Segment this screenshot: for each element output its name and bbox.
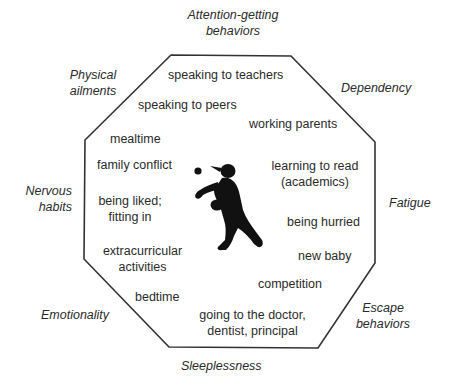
label-line: Nervous — [10, 183, 72, 199]
label-line: ailments — [62, 83, 124, 99]
item-line: being liked; — [90, 193, 170, 209]
item-going-to-doctor: going to the doctor, dentist, principal — [190, 307, 315, 339]
label-emotionality: Emotionality — [41, 307, 109, 323]
item-bedtime: bedtime — [135, 289, 179, 305]
item-competition: competition — [258, 276, 322, 292]
item-line: going to the doctor, — [190, 307, 315, 323]
item-learning-to-read: learning to read (academics) — [265, 158, 365, 190]
item-family-conflict: family conflict — [97, 157, 172, 173]
label-nervous-habits: Nervous habits — [10, 183, 72, 215]
label-line: habits — [10, 199, 72, 215]
label-line: behaviors — [178, 23, 288, 39]
item-line: extracurricular — [95, 243, 190, 259]
label-line: Attention-getting — [178, 7, 288, 23]
label-sleeplessness: Sleeplessness — [181, 358, 262, 374]
label-line: Escape — [343, 300, 423, 316]
item-mealtime: mealtime — [110, 131, 161, 147]
label-line: behaviors — [343, 316, 423, 332]
item-speaking-to-peers: speaking to peers — [138, 97, 237, 113]
item-line: (academics) — [265, 174, 365, 190]
item-working-parents: working parents — [249, 116, 337, 132]
label-escape-behaviors: Escape behaviors — [343, 300, 423, 332]
item-being-hurried: being hurried — [287, 214, 360, 230]
item-line: fitting in — [90, 209, 170, 225]
item-line: learning to read — [265, 158, 365, 174]
item-line: activities — [95, 259, 190, 275]
label-line: Physical — [62, 67, 124, 83]
child-throwing-silhouette — [194, 164, 262, 250]
label-dependency: Dependency — [341, 80, 411, 96]
label-fatigue: Fatigue — [389, 195, 431, 211]
item-speaking-to-teachers: speaking to teachers — [168, 67, 283, 83]
item-new-baby: new baby — [298, 248, 352, 264]
item-extracurricular-activities: extracurricular activities — [95, 243, 190, 275]
item-line: dentist, principal — [190, 323, 315, 339]
label-attention-getting-behaviors: Attention-getting behaviors — [178, 7, 288, 39]
label-physical-ailments: Physical ailments — [62, 67, 124, 99]
item-being-liked: being liked; fitting in — [90, 193, 170, 225]
